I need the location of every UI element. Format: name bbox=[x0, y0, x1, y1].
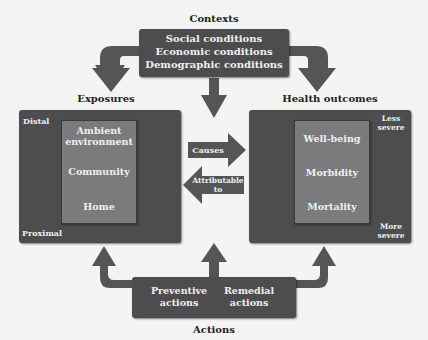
exposures-box: Distal Proximal Ambient environment Comm… bbox=[19, 110, 181, 243]
exposure-ambient: Ambient environment bbox=[62, 125, 136, 147]
severity-top: Less severe bbox=[373, 114, 409, 132]
severity-bottom: More severe bbox=[373, 222, 409, 240]
health-outcomes-box: Less severe More severe Well-being Morbi… bbox=[249, 110, 411, 243]
contexts-title: Contexts bbox=[164, 13, 264, 24]
exposures-scale-top: Distal bbox=[23, 116, 49, 126]
action-preventive: Preventive actions bbox=[146, 285, 212, 309]
context-demographic: Demographic conditions bbox=[139, 58, 289, 71]
exposures-scale-bottom: Proximal bbox=[22, 228, 62, 238]
attributable-label: Attributable to bbox=[191, 176, 245, 194]
context-economic: Economic conditions bbox=[139, 45, 289, 58]
exposure-home: Home bbox=[62, 201, 136, 212]
causes-label: Causes bbox=[188, 145, 228, 155]
outcome-wellbeing: Well-being bbox=[295, 133, 369, 144]
contexts-box: Social conditions Economic conditions De… bbox=[139, 29, 289, 77]
exposures-inner-box: Ambient environment Community Home bbox=[61, 120, 137, 224]
actions-box: Preventive actions Remedial actions bbox=[132, 277, 296, 318]
health-inner-box: Well-being Morbidity Mortality bbox=[294, 120, 370, 224]
actions-title: Actions bbox=[174, 324, 254, 335]
health-outcomes-title: Health outcomes bbox=[275, 93, 385, 104]
outcome-mortality: Mortality bbox=[295, 201, 369, 212]
exposure-community: Community bbox=[62, 166, 136, 177]
exposures-title: Exposures bbox=[66, 93, 146, 104]
outcome-morbidity: Morbidity bbox=[295, 167, 369, 178]
context-social: Social conditions bbox=[139, 32, 289, 45]
action-remedial: Remedial actions bbox=[216, 285, 282, 309]
